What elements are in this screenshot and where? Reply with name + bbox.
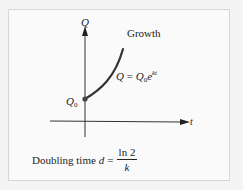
fraction-numerator: ln 2 xyxy=(117,146,138,160)
t-axis xyxy=(50,121,182,122)
initial-value-base: Q xyxy=(66,95,74,107)
curve-equation: Q = Q0ekt xyxy=(116,70,157,84)
initial-point xyxy=(82,96,87,101)
initial-value-label: Q0 xyxy=(66,96,77,109)
doubling-time-formula: Doubling time d = ln 2 k xyxy=(32,146,137,173)
initial-value-subscript: 0 xyxy=(74,101,78,109)
doubling-time-fraction: ln 2 k xyxy=(117,146,138,173)
equation-equals: = xyxy=(127,70,133,82)
t-axis-label: t xyxy=(190,117,193,127)
doubling-time-prefix: Doubling time xyxy=(32,154,96,166)
t-axis-arrow-icon xyxy=(180,119,190,125)
fraction-denominator: k xyxy=(125,160,130,173)
figure-title: Growth xyxy=(127,28,161,39)
doubling-time-variable: d xyxy=(99,154,105,166)
doubling-time-equals: = xyxy=(107,154,113,166)
equation-base: Q xyxy=(136,70,144,82)
equation-exponent: kt xyxy=(152,69,157,77)
equation-lhs: Q xyxy=(116,70,124,82)
q-axis-label: Q xyxy=(81,17,89,28)
